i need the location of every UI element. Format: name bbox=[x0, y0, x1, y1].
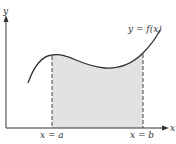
curve-label: y = f(x) bbox=[127, 24, 162, 34]
x-axis-arrow-icon bbox=[162, 126, 169, 131]
y-axis-label: y bbox=[2, 6, 9, 16]
y-axis-arrow-icon bbox=[4, 15, 9, 22]
left-bound-label: x = a bbox=[40, 130, 64, 140]
right-bound-label: x = b bbox=[130, 130, 154, 140]
area-under-curve-diagram: y x y = f(x) x = a x = b bbox=[0, 0, 176, 144]
shaded-area bbox=[52, 53, 143, 128]
x-axis-label: x bbox=[170, 123, 175, 133]
